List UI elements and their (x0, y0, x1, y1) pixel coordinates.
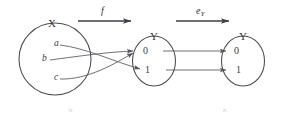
element-y-middle-1: 1 (145, 65, 150, 75)
mapping-diagram: X Y Y a b c 0 1 0 1 f eY × × (0, 0, 283, 128)
set-label-y-middle: Y (150, 31, 158, 42)
cross-mark-left: × (68, 106, 73, 115)
cross-mark-right: × (222, 106, 227, 115)
set-label-x: X (48, 18, 56, 29)
map-label-ey: eY (196, 6, 204, 17)
element-y-middle-0: 0 (143, 46, 148, 56)
element-y-right-0: 0 (234, 46, 239, 56)
element-a: a (54, 39, 59, 49)
map-label-ey-text: e (196, 5, 200, 16)
element-c: c (54, 73, 58, 83)
element-b: b (42, 54, 47, 64)
set-boundary-y-middle (133, 36, 176, 86)
map-label-f-text: f (101, 5, 104, 16)
set-boundary-y-right (222, 36, 265, 86)
map-label-f: f (101, 6, 104, 16)
set-label-y-right: Y (239, 31, 247, 42)
map-label-ey-subscript: Y (201, 10, 205, 17)
element-y-right-1: 1 (236, 65, 241, 75)
